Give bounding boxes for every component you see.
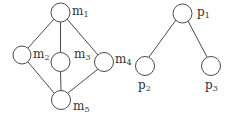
node-m4 bbox=[95, 53, 114, 72]
label-m2: m2 bbox=[33, 47, 49, 62]
node-m2 bbox=[13, 46, 31, 64]
right-graph-edges bbox=[149, 20, 207, 57]
label-p3: p3 bbox=[205, 78, 218, 93]
node-p2 bbox=[136, 57, 155, 76]
diagram-canvas: m1 m2 m3 m4 m5 p1 p2 p3 bbox=[0, 0, 233, 119]
label-m5: m5 bbox=[73, 99, 89, 114]
label-m1: m1 bbox=[72, 4, 88, 19]
label-p1: p1 bbox=[197, 5, 210, 20]
node-m3 bbox=[51, 53, 70, 72]
left-graph-nodes bbox=[13, 3, 114, 110]
node-m5 bbox=[52, 91, 71, 110]
edge-p1-p3 bbox=[188, 21, 207, 57]
node-p1 bbox=[173, 4, 192, 23]
node-p3 bbox=[202, 57, 221, 76]
node-m1 bbox=[51, 3, 70, 22]
label-p2: p2 bbox=[138, 78, 151, 93]
label-m4: m4 bbox=[115, 52, 131, 67]
edge-m4-m5 bbox=[68, 69, 98, 93]
label-m3: m3 bbox=[74, 47, 90, 62]
edge-m2-m5 bbox=[28, 62, 54, 93]
edge-m1-m2 bbox=[28, 19, 54, 48]
edge-m3-m5 bbox=[61, 72, 62, 91]
edge-p1-p2 bbox=[149, 20, 176, 57]
